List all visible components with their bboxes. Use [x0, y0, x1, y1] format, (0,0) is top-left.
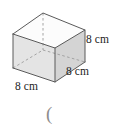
dimension-label-depth: 8 cm — [66, 65, 89, 77]
cube-figure: 8 cm 8 cm 8 cm ( — [0, 0, 133, 131]
dimension-label-width: 8 cm — [15, 80, 38, 92]
trailing-parenthesis-mark: ( — [46, 104, 52, 124]
dimension-label-height: 8 cm — [86, 33, 109, 45]
